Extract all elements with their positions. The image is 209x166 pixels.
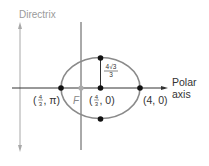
- directrix-label: Directrix: [19, 9, 56, 20]
- axis-label: axis: [172, 88, 191, 100]
- directrix-line: [18, 22, 22, 152]
- svg-text:(: (: [89, 94, 93, 106]
- polar-label: Polar: [172, 76, 197, 88]
- svg-text:(: (: [33, 94, 37, 106]
- top-point: [98, 55, 104, 61]
- arrow-down-icon: [18, 145, 22, 152]
- svg-text:3: 3: [95, 101, 99, 107]
- svg-text:3: 3: [39, 101, 43, 107]
- center-point: [98, 85, 104, 91]
- focus-point: [78, 85, 83, 90]
- semi-minor-num: 4√3: [106, 63, 117, 70]
- svg-text:, 0): , 0): [100, 94, 115, 106]
- bottom-point: [98, 116, 104, 122]
- left-vertex-label: ( 4 3 , π): [33, 94, 60, 108]
- svg-text:4: 4: [95, 94, 99, 100]
- arrow-right-icon: [161, 86, 168, 90]
- center-label: ( 4 3 , 0): [89, 94, 115, 108]
- left-vertex-point: [58, 85, 64, 91]
- polar-axis: [12, 86, 168, 90]
- svg-text:4: 4: [39, 94, 43, 100]
- right-vertex-label: (4, 0): [143, 94, 168, 106]
- right-vertex-point: [137, 85, 143, 91]
- ellipse-diagram: Directrix Polar axis 4√3 3 F ( 4 3 , π) …: [0, 0, 209, 166]
- arrow-up-icon: [18, 22, 22, 29]
- focus-label: F: [73, 95, 80, 106]
- semi-minor-den: 3: [109, 71, 113, 78]
- svg-text:, π): , π): [44, 94, 61, 106]
